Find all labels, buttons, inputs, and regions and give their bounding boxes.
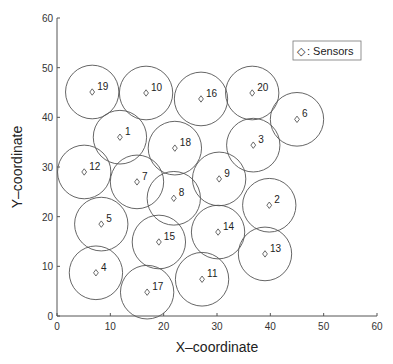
sensor-diamond-icon	[251, 142, 256, 148]
sensor-diamond-icon	[90, 89, 95, 95]
coverage-circle	[66, 65, 119, 119]
sensor-diamond-icon	[263, 251, 268, 257]
sensor-diamond-icon	[295, 116, 300, 122]
coverage-circle	[243, 178, 296, 232]
sensor-diamond-icon	[156, 239, 161, 245]
coverage-circle	[75, 197, 128, 251]
sensor-diamond-icon	[171, 195, 176, 201]
y-tick-label: 0	[47, 311, 53, 322]
sensor-label: 11	[207, 268, 218, 279]
sensor-diamond-icon	[216, 229, 221, 235]
sensor-label: 15	[164, 231, 176, 242]
sensor-label: 6	[302, 108, 308, 119]
legend: ◇ : Sensors	[293, 41, 361, 60]
sensor-diamond-icon	[94, 270, 99, 276]
x-tick-label: 60	[371, 321, 383, 332]
sensor-label: 2	[274, 194, 280, 205]
sensor-label: 19	[97, 81, 109, 92]
x-tick-label: 40	[265, 321, 277, 332]
coverage-circle	[270, 93, 323, 147]
sensor-label: 13	[270, 243, 282, 254]
x-tick-label: 50	[318, 321, 330, 332]
sensor-label: 4	[101, 262, 107, 273]
coverage-circle	[175, 252, 228, 306]
coverage-circle	[238, 227, 291, 281]
coverage-circle	[110, 155, 163, 209]
sensor-label: 3	[258, 134, 264, 145]
y-axis-label: Y–coordinate	[9, 126, 25, 209]
sensor-label: 1	[125, 126, 131, 137]
y-tick-label: 40	[42, 112, 54, 123]
sensor-label: 17	[152, 281, 164, 292]
sensor-diamond-icon	[145, 289, 150, 295]
coverage-circle	[69, 246, 122, 300]
sensor-diamond-icon	[118, 134, 123, 140]
legend-label: : Sensors	[307, 45, 354, 57]
x-tick-label: 10	[105, 321, 117, 332]
coverage-circle	[148, 121, 201, 175]
y-tick-label: 10	[42, 261, 54, 272]
sensor-diamond-icon	[200, 276, 205, 282]
y-tick-label: 20	[42, 212, 54, 223]
coverage-circle	[120, 265, 173, 319]
coverage-circle	[132, 215, 185, 269]
coverage-circle	[58, 145, 111, 199]
sensor-label: 16	[206, 88, 218, 99]
x-tick-label: 0	[54, 321, 60, 332]
coverage-circle	[191, 205, 244, 259]
sensor-label: 10	[151, 82, 163, 93]
x-tick-label: 20	[158, 321, 170, 332]
coverage-circle	[227, 118, 280, 172]
coverage-circle	[174, 72, 227, 126]
coverage-circle	[226, 66, 279, 120]
sensor-label: 14	[223, 221, 235, 232]
legend-marker-icon: ◇	[297, 45, 306, 57]
coverage-circle	[119, 66, 172, 120]
sensor-label: 9	[224, 168, 230, 179]
sensor-label: 5	[106, 213, 112, 224]
sensor-label: 18	[180, 137, 192, 148]
sensor-diamond-icon	[144, 90, 149, 96]
sensor-diamond-icon	[199, 96, 204, 102]
sensor-coverage-chart: 1234567891011121314151617181920 01020304…	[0, 0, 393, 364]
axes: 01020304050600102030405060	[42, 13, 383, 332]
coverage-circle	[192, 152, 245, 206]
sensor-markers: 1234567891011121314151617181920	[82, 81, 308, 295]
sensor-diamond-icon	[135, 179, 140, 185]
coverage-circles	[58, 65, 324, 319]
sensor-diamond-icon	[99, 221, 104, 227]
x-axis-label: X–coordinate	[176, 339, 259, 355]
sensor-label: 8	[179, 187, 185, 198]
sensor-diamond-icon	[217, 176, 222, 182]
sensor-diamond-icon	[82, 169, 87, 175]
sensor-label: 12	[89, 161, 101, 172]
sensor-label: 20	[257, 82, 269, 93]
sensor-diamond-icon	[250, 90, 255, 96]
y-tick-label: 30	[42, 162, 54, 173]
y-tick-label: 60	[42, 13, 54, 24]
y-tick-label: 50	[42, 63, 54, 74]
sensor-diamond-icon	[267, 202, 272, 208]
x-tick-label: 30	[211, 321, 223, 332]
sensor-label: 7	[142, 171, 148, 182]
sensor-diamond-icon	[172, 145, 177, 151]
